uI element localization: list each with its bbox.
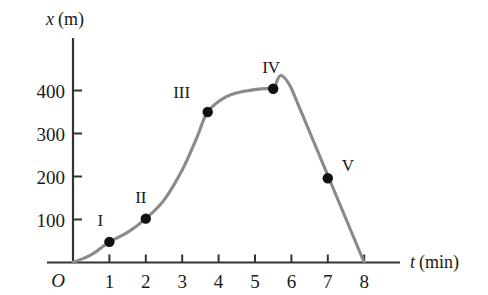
position-time-graph: [0, 0, 488, 295]
x-tick-label: 3: [177, 272, 187, 291]
y-axis-title: x(m): [46, 10, 84, 28]
x-axis-symbol: t: [410, 252, 415, 272]
data-point-marker: [202, 107, 212, 117]
y-tick-label: 300: [37, 124, 66, 143]
data-point-marker: [323, 173, 333, 183]
data-point-label: V: [342, 157, 354, 174]
x-tick-label: 8: [359, 272, 369, 291]
x-tick-label: 6: [287, 272, 297, 291]
x-axis-ticks: [109, 255, 364, 263]
data-point-marker: [141, 213, 151, 223]
data-point-marker: [104, 237, 114, 247]
data-point-label: I: [98, 212, 104, 229]
x-axis-unit: (min): [419, 252, 459, 272]
chart-figure: x(m) t(min) O 100200300400 12345678 IIII…: [0, 0, 488, 295]
origin-label: O: [51, 271, 65, 290]
x-tick-label: 4: [214, 272, 224, 291]
y-tick-label: 100: [37, 210, 66, 229]
y-tick-label: 200: [37, 167, 66, 186]
x-tick-label: 2: [141, 272, 151, 291]
y-axis-ticks: [73, 91, 82, 220]
x-tick-label: 7: [323, 272, 333, 291]
y-tick-label: 400: [37, 81, 66, 100]
position-curve: [73, 75, 364, 262]
data-point-label: II: [135, 189, 146, 206]
x-tick-label: 5: [250, 272, 260, 291]
y-axis-symbol: x: [46, 9, 54, 29]
data-point-marker: [268, 84, 278, 94]
x-tick-label: 1: [105, 272, 115, 291]
x-axis-title: t(min): [410, 253, 459, 271]
data-point-label: III: [173, 84, 190, 101]
y-axis-unit: (m): [58, 9, 84, 29]
data-point-label: IV: [262, 59, 280, 76]
